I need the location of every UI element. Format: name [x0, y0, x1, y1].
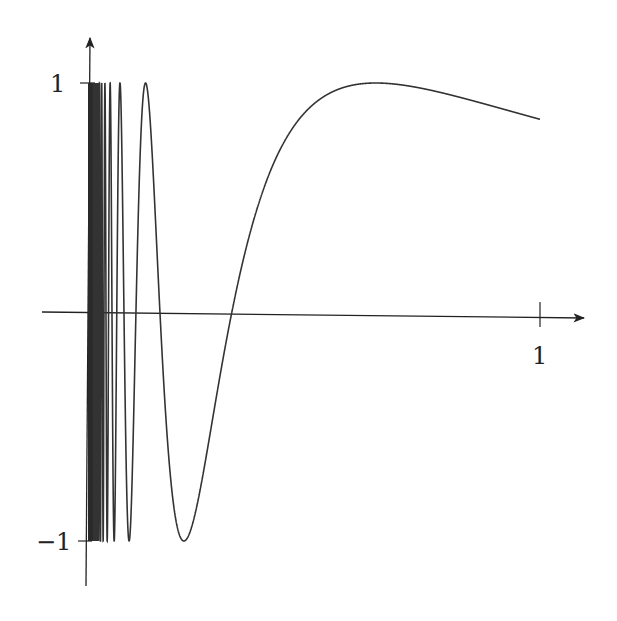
- sin-inverse-x-curve: [93, 83, 540, 541]
- plot-area: [0, 0, 617, 621]
- y-tick-label-minus-1: −1: [36, 530, 71, 554]
- x-tick-label-1: 1: [532, 344, 547, 368]
- y-tick-label-1: 1: [50, 72, 65, 96]
